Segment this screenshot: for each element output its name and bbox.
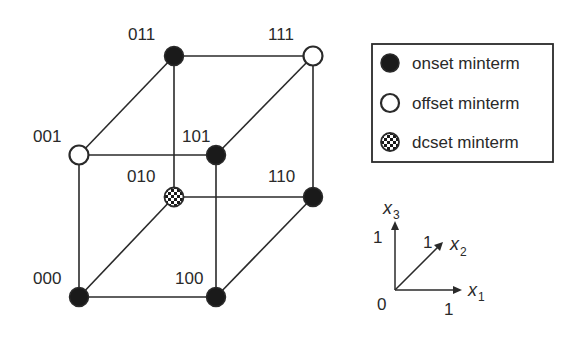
label-100: 100 — [175, 269, 203, 288]
label-010: 010 — [127, 167, 155, 186]
label-000: 000 — [33, 269, 61, 288]
vertex-101-onset — [207, 146, 226, 165]
legend: onset minterm offset minterm dcset minte… — [372, 44, 553, 162]
offset-marker-icon — [381, 94, 399, 112]
x3-axis-subscript: 3 — [393, 208, 400, 222]
x2-axis-name: x — [449, 234, 460, 254]
label-101: 101 — [182, 127, 210, 146]
vertex-100-onset — [207, 288, 226, 307]
vertex-110-onset — [304, 188, 323, 207]
vertex-001-offset — [70, 146, 89, 165]
label-111: 111 — [268, 25, 294, 44]
label-011: 011 — [128, 25, 155, 44]
x2-tick-label: 1 — [423, 233, 432, 252]
legend-offset-label: offset minterm — [412, 94, 519, 113]
x1-axis-name: x — [467, 280, 478, 300]
label-001: 001 — [33, 127, 61, 146]
edge-101-111 — [216, 56, 313, 155]
edge-100-110 — [216, 197, 313, 297]
edge-001-011 — [79, 56, 174, 155]
x3-axis-name: x — [382, 198, 393, 218]
vertex-010-dcset — [165, 188, 184, 207]
label-110: 110 — [268, 167, 295, 186]
boolean-cube-diagram: 000 100 001 101 010 110 011 111 onset mi… — [0, 0, 586, 339]
onset-marker-icon — [381, 54, 399, 72]
x3-tick-label: 1 — [373, 228, 382, 247]
coordinate-axes — [391, 221, 462, 294]
vertex-011-onset — [165, 47, 184, 66]
x1-tick-label: 1 — [444, 300, 453, 319]
vertex-000-onset — [70, 288, 89, 307]
vertex-111-offset — [304, 47, 323, 66]
dcset-marker-icon — [381, 133, 399, 151]
legend-dcset-label: dcset minterm — [412, 133, 519, 152]
legend-onset-label: onset minterm — [412, 54, 520, 73]
x1-axis-subscript: 1 — [478, 290, 485, 304]
x2-axis-subscript: 2 — [460, 245, 467, 259]
edge-000-010 — [79, 197, 174, 297]
origin-label: 0 — [377, 295, 386, 314]
x1-arrow-icon — [453, 286, 462, 294]
axis-labels: 0 1 1 1 x 1 x 2 x 3 — [373, 198, 485, 319]
x3-arrow-icon — [391, 221, 399, 230]
x2-axis-line — [395, 246, 439, 290]
